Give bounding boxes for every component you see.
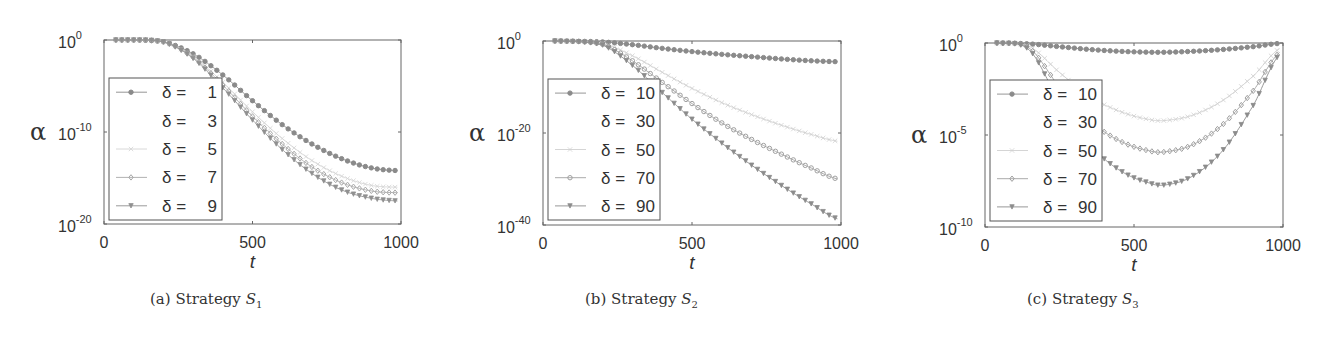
y-tick-label: 10-10 [939, 216, 973, 238]
legend-label: δ = [1043, 198, 1067, 217]
legend-value: 90 [1078, 198, 1097, 217]
caption-c: (c) Strategy S3 [1027, 290, 1139, 310]
legend-label: δ = [1043, 142, 1067, 161]
x-tick-label: 1000 [1265, 237, 1301, 254]
y-tick-label: 10-5 [939, 124, 967, 146]
caption-text: Strategy [1052, 290, 1117, 308]
x-tick-label: 500 [1121, 237, 1148, 254]
legend-label: δ = [1043, 85, 1067, 104]
caption-label: (c) [1027, 290, 1047, 308]
x-axis-label: t [1131, 254, 1137, 275]
caption-symbol: S [1122, 290, 1132, 308]
x-tick-label: 0 [981, 237, 990, 254]
y-axis-label: α [911, 121, 927, 149]
legend: δ =10δ =30δ =50δ =70δ =90 [990, 80, 1102, 221]
legend-value: 10 [1078, 85, 1097, 104]
legend-label: δ = [1043, 113, 1067, 132]
y-tick-label: 100 [939, 32, 963, 54]
panel-c: 0500100010010-510-10tαδ =10δ =30δ =50δ =… [0, 0, 1330, 339]
legend-label: δ = [1043, 170, 1067, 189]
legend-value: 50 [1078, 142, 1097, 161]
legend-value: 70 [1078, 170, 1097, 189]
legend-value: 30 [1078, 113, 1097, 132]
chart-c: 0500100010010-510-10tαδ =10δ =30δ =50δ =… [0, 0, 1330, 339]
caption-subscript: 3 [1132, 299, 1138, 310]
